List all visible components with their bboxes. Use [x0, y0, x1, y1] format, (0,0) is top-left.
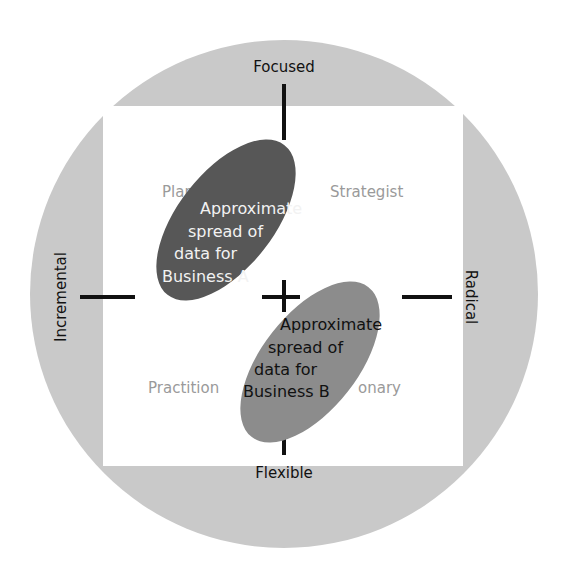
ellipse-b-line-1: Approximate: [280, 315, 382, 334]
quadrant-label-top-right: Strategist: [330, 183, 403, 201]
ellipse-a-line-4: Business A: [162, 267, 249, 286]
ellipse-b-line-3: data for: [254, 360, 318, 379]
axis-label-left: Incremental: [52, 252, 70, 342]
ellipse-b-line-2: spread of: [268, 338, 343, 357]
quadrant-label-bottom-left: Practition: [148, 379, 219, 397]
ellipse-a-line-3: data for: [174, 244, 238, 263]
axis-label-top: Focused: [253, 58, 315, 76]
quadrant-label-bottom-right: onary: [358, 379, 401, 397]
axis-label-right: Radical: [462, 270, 480, 325]
quadrant-diagram: Plar Strategist Practition onary Approxi…: [0, 0, 564, 583]
ellipse-a-line-2: spread of: [188, 222, 263, 241]
axis-label-bottom: Flexible: [255, 464, 313, 482]
ellipse-a-line-1: Approximate: [200, 199, 302, 218]
ellipse-b-line-4: Business B: [243, 382, 330, 401]
